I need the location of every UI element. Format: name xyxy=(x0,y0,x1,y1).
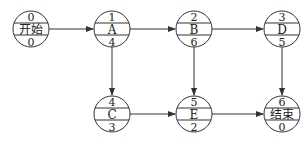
node-label: A xyxy=(107,23,117,37)
node-label: D xyxy=(277,23,287,37)
node-label: 开始 xyxy=(19,23,43,37)
node-bottom-value: 4 xyxy=(109,36,116,49)
node-A: 1A4 xyxy=(94,11,130,49)
node-E: 5E2 xyxy=(176,96,212,134)
node-end: 6结束0 xyxy=(264,96,300,134)
node-bottom-value: 6 xyxy=(191,36,198,49)
node-B: 2B6 xyxy=(176,11,212,49)
node-bottom-value: 5 xyxy=(279,36,286,49)
node-label: B xyxy=(190,23,199,37)
diagram-canvas: 0开始01A42B63D54C35E26结束0 xyxy=(0,0,308,142)
node-bottom-value: 2 xyxy=(191,121,198,134)
node-bottom-value: 3 xyxy=(109,121,116,134)
node-start: 0开始0 xyxy=(13,11,49,49)
node-bottom-value: 0 xyxy=(28,36,35,49)
node-C: 4C3 xyxy=(94,96,130,134)
node-bottom-value: 0 xyxy=(279,121,286,134)
edges-layer xyxy=(49,29,282,114)
node-label: E xyxy=(190,108,199,122)
node-D: 3D5 xyxy=(264,11,300,49)
node-label: 结束 xyxy=(270,108,294,122)
network-diagram: 0开始01A42B63D54C35E26结束0 xyxy=(0,0,308,142)
node-label: C xyxy=(107,108,116,122)
